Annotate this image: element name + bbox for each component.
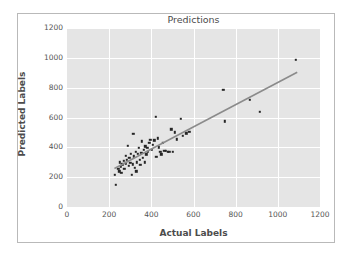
regression-line [67, 28, 320, 207]
y-tick-label: 800 [27, 83, 63, 92]
x-tick-label: 600 [179, 210, 209, 219]
chart-title: Predictions [67, 14, 320, 26]
x-axis-label: Actual Labels [67, 228, 320, 238]
x-tick-label: 1200 [305, 210, 335, 219]
x-tick-label: 400 [136, 210, 166, 219]
y-axis-label: Predicted Labels [17, 59, 27, 169]
x-tick-label: 0 [52, 210, 82, 219]
y-tick-label: 0 [27, 202, 63, 211]
x-tick-label: 200 [94, 210, 124, 219]
y-tick-label: 1000 [27, 53, 63, 62]
figure-canvas: Predictions 020040060080010001200 020040… [0, 0, 353, 259]
y-tick-label: 1200 [27, 23, 63, 32]
plot-area [67, 28, 320, 207]
x-tick-label: 1000 [263, 210, 293, 219]
y-tick-label: 400 [27, 142, 63, 151]
y-tick-label: 600 [27, 113, 63, 122]
y-tick-label: 200 [27, 172, 63, 181]
gridline-vertical [320, 28, 321, 207]
x-tick-label: 800 [221, 210, 251, 219]
